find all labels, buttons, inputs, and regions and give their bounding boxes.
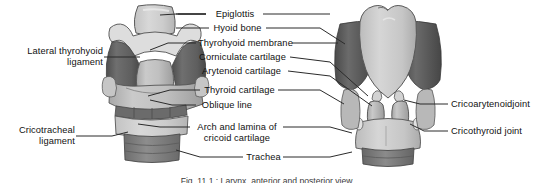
label-cricothyroid-joint: Cricothyroid joint: [451, 126, 522, 137]
label-epiglottis: Epiglottis: [208, 9, 262, 20]
label-cricotracheal-ligament: Cricotracheal ligament: [0, 125, 75, 146]
label-arytenoid-cartilage: Arytenoid cartilage: [196, 66, 287, 77]
figure-caption: Fig. 11.1 : Larynx, anterior and posteri…: [0, 176, 535, 183]
label-lateral-thyrohyoid-ligament: Lateral thyrohyoid ligament: [8, 46, 103, 67]
posterior-larynx-illustration: [326, 2, 451, 168]
label-line-1: Cricotracheal: [19, 125, 75, 135]
label-cricoid-arch-lamina-line2: cricoid cartilage: [192, 133, 282, 144]
label-cricoid-arch-lamina-line1: Arch and lamina of: [192, 122, 282, 133]
label-trachea: Trachea: [245, 152, 282, 163]
label-oblique-line: Oblique line: [198, 100, 256, 111]
label-hyoid-bone: Hyoid bone: [210, 23, 265, 34]
anatomy-figure: Epiglottis Hyoid bone Thyrohyoid membran…: [0, 0, 535, 183]
label-corniculate-cartilage: Corniculate cartilage: [196, 52, 289, 63]
label-line-2: ligament: [39, 136, 75, 146]
label-line-2: ligament: [67, 57, 103, 67]
label-thyroid-cartilage: Thyroid cartilage: [202, 85, 277, 96]
label-line-1: Lateral thyrohyoid: [27, 46, 103, 56]
label-cricoarytenoid-joint: Cricoarytenoidjoint: [451, 99, 530, 110]
label-thyrohyoid-membrane: Thyrohyoid membrane: [198, 38, 291, 49]
